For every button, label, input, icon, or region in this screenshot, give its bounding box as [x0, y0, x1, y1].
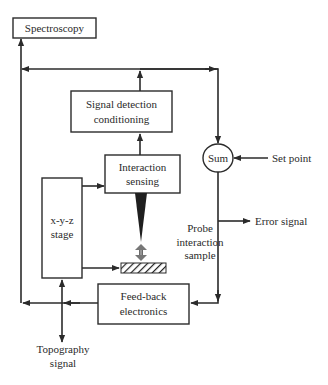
topography-label-2: signal	[50, 357, 76, 369]
signal-detection-label-1: Signal detection	[86, 98, 158, 110]
error-signal-label: Error signal	[255, 215, 307, 227]
probe-tip-icon	[135, 193, 147, 242]
stage-block: x-y-z stage	[42, 178, 82, 278]
sum-node: Sum	[203, 144, 233, 172]
probe-label-1: Probe	[187, 222, 213, 234]
feedback-label-2: electronics	[120, 305, 168, 317]
probe-label-2: interaction	[176, 236, 224, 248]
topography-label-1: Topography	[37, 343, 90, 355]
sum-label: Sum	[208, 152, 229, 164]
set-point-label: Set point	[272, 152, 311, 164]
signal-detection-label-2: conditioning	[94, 113, 150, 125]
spectroscopy-label: Spectroscopy	[25, 22, 85, 34]
feedback-block: Feed-back electronics	[98, 284, 189, 324]
interaction-sensing-block: Interaction sensing	[105, 155, 180, 193]
signal-detection-block: Signal detection conditioning	[71, 91, 172, 132]
sample-icon	[121, 263, 166, 273]
interaction-sensing-label-1: Interaction	[119, 161, 167, 173]
interaction-sensing-label-2: sensing	[126, 175, 160, 187]
double-arrow-icon	[135, 244, 147, 261]
diagram-canvas: Spectroscopy Signal detection conditioni…	[0, 0, 328, 385]
feedback-label-1: Feed-back	[121, 290, 167, 302]
stage-label-2: stage	[51, 228, 74, 240]
probe-label-3: sample	[184, 249, 215, 261]
stage-label-1: x-y-z	[50, 214, 73, 226]
block-diagram: Spectroscopy Signal detection conditioni…	[0, 0, 328, 385]
spectroscopy-block: Spectroscopy	[13, 18, 96, 38]
